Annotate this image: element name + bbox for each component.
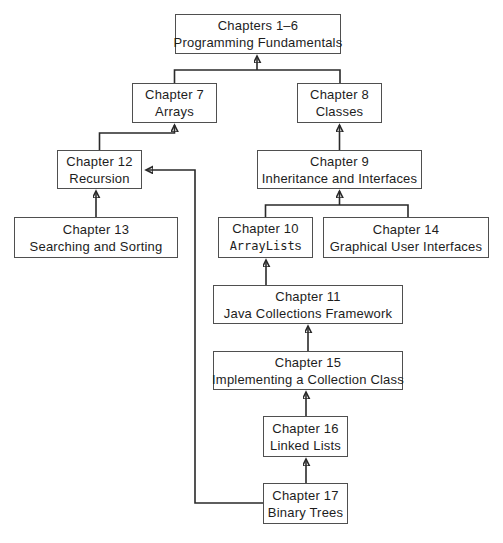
- node-chapter-14: Chapter 14 Graphical User Interfaces: [323, 217, 489, 258]
- node-title: Chapter 8: [310, 86, 369, 103]
- node-subtitle: Binary Trees: [268, 504, 343, 521]
- node-subtitle: Linked Lists: [270, 437, 341, 454]
- edge-bus-ch10-ch14: [266, 205, 409, 217]
- connector-lines: [0, 0, 503, 543]
- node-subtitle: Searching and Sorting: [30, 238, 163, 255]
- node-subtitle: Graphical User Interfaces: [330, 238, 482, 255]
- node-title: Chapter 12: [66, 153, 132, 170]
- node-chapter-11: Chapter 11 Java Collections Framework: [213, 285, 403, 324]
- node-chapters-1-6: Chapters 1–6 Programming Fundamentals: [175, 14, 341, 54]
- node-title: Chapter 10: [232, 220, 298, 237]
- node-title: Chapter 7: [145, 86, 204, 103]
- node-subtitle: Programming Fundamentals: [174, 34, 343, 51]
- node-title: Chapter 15: [275, 354, 341, 371]
- node-chapter-12: Chapter 12 Recursion: [57, 150, 142, 189]
- node-title: Chapters 1–6: [218, 17, 298, 34]
- node-title: Chapter 14: [373, 221, 439, 238]
- node-title: Chapter 9: [310, 153, 369, 170]
- arraylist-code-text: ArrayList: [230, 239, 295, 253]
- node-subtitle: Java Collections Framework: [224, 305, 392, 322]
- node-subtitle: Recursion: [69, 170, 129, 187]
- node-subtitle: Classes: [316, 103, 364, 120]
- node-subtitle: Inheritance and Interfaces: [262, 170, 418, 187]
- node-chapter-17: Chapter 17 Binary Trees: [263, 483, 348, 524]
- edge-bus-ch7-ch8: [175, 70, 341, 83]
- node-title: Chapter 16: [272, 420, 338, 437]
- node-chapter-15: Chapter 15 Implementing a Collection Cla…: [213, 351, 403, 390]
- node-chapter-16: Chapter 16 Linked Lists: [263, 416, 348, 457]
- node-subtitle: ArrayLists: [230, 237, 302, 255]
- node-chapter-9: Chapter 9 Inheritance and Interfaces: [257, 150, 422, 189]
- node-subtitle: Implementing a Collection Class: [212, 371, 404, 388]
- node-title: Chapter 17: [272, 487, 338, 504]
- node-subtitle: Arrays: [155, 103, 194, 120]
- node-chapter-13: Chapter 13 Searching and Sorting: [14, 217, 178, 258]
- node-title: Chapter 13: [63, 221, 129, 238]
- node-title: Chapter 11: [275, 288, 340, 305]
- node-chapter-10: Chapter 10 ArrayLists: [218, 217, 313, 258]
- node-chapter-8: Chapter 8 Classes: [297, 83, 382, 123]
- arraylist-suffix: s: [295, 238, 302, 253]
- edge-ch12-ch7: [100, 125, 175, 150]
- node-chapter-7: Chapter 7 Arrays: [132, 83, 217, 123]
- chapter-dependency-diagram: Chapters 1–6 Programming Fundamentals Ch…: [0, 0, 503, 543]
